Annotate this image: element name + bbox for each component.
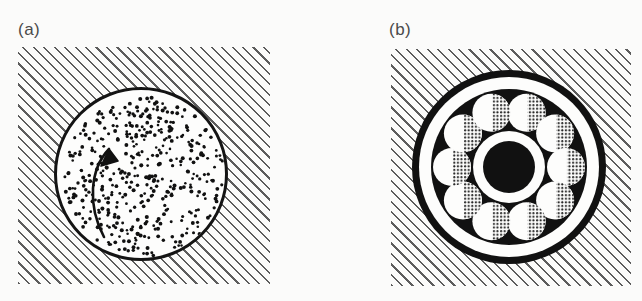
bearing-ball: [536, 115, 574, 153]
stipple-pattern-a: [57, 90, 225, 258]
stipple-dots-svg: [57, 90, 228, 261]
ball-bearing-svg: [410, 68, 608, 266]
bearing-hub: [483, 141, 535, 193]
bearing-ball: [547, 148, 585, 186]
stippled-disc-a: [54, 87, 228, 261]
bearing-ball: [472, 94, 510, 132]
bearing-ball: [444, 182, 482, 220]
ball-bearing-b: [410, 68, 608, 266]
bearing-ball: [433, 148, 471, 186]
bearing-ball: [508, 202, 546, 240]
panel-label-b: (b): [389, 20, 411, 40]
figure-canvas: (a) (b): [0, 0, 642, 301]
panel-label-a: (a): [18, 20, 40, 40]
